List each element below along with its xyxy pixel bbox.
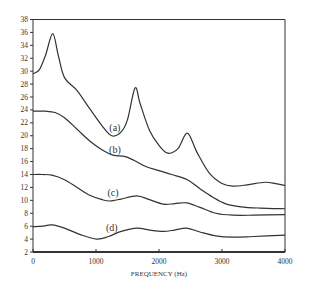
series-labels: (a)(b)(c)(d)	[106, 122, 121, 234]
chart-series	[33, 34, 285, 239]
y-tick-label: 12	[21, 183, 29, 192]
series-line-b	[33, 111, 285, 209]
y-tick-label: 16	[21, 157, 29, 166]
y-tick-label: 26	[21, 93, 29, 102]
series-line-c	[33, 174, 285, 215]
y-tick-label: 30	[21, 67, 29, 76]
x-tick-label: 3000	[215, 257, 230, 266]
x-tick-label: 4000	[278, 257, 293, 266]
y-tick-label: 36	[21, 28, 29, 37]
y-tick-label: 22	[21, 118, 29, 127]
y-tick-label: 18	[21, 144, 29, 153]
y-tick-label: 8	[24, 209, 28, 218]
series-label-c: (c)	[107, 187, 118, 199]
y-tick-label: 24	[21, 105, 29, 114]
series-line-a	[33, 34, 285, 186]
chart-canvas: 2468101214161820222426283032343638010002…	[0, 0, 310, 293]
chart-axes: 2468101214161820222426283032343638010002…	[21, 15, 293, 266]
series-label-a: (a)	[109, 122, 120, 134]
y-tick-label: 32	[21, 54, 29, 63]
frequency-response-chart: 2468101214161820222426283032343638010002…	[0, 0, 310, 293]
y-tick-label: 2	[24, 248, 28, 257]
x-tick-label: 0	[31, 257, 35, 266]
y-tick-label: 4	[24, 235, 28, 244]
x-tick-label: 1000	[89, 257, 104, 266]
y-tick-label: 28	[21, 80, 29, 89]
y-tick-label: 10	[21, 196, 29, 205]
x-tick-label: 2000	[152, 257, 167, 266]
series-line-d	[33, 225, 285, 239]
y-tick-label: 6	[24, 222, 28, 231]
series-label-d: (d)	[106, 222, 118, 234]
y-tick-label: 14	[21, 170, 29, 179]
y-tick-label: 34	[21, 41, 29, 50]
y-tick-label: 38	[21, 15, 29, 24]
x-axis-label: FREQUENCY (Hz)	[131, 270, 188, 278]
series-label-b: (b)	[109, 144, 121, 156]
y-tick-label: 20	[21, 131, 29, 140]
